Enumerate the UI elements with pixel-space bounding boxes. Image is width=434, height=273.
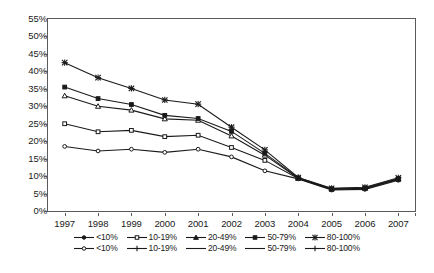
data-point-marker-circle-open	[196, 147, 200, 151]
legend-marker-triangle-filled	[186, 233, 206, 242]
legend-item-label: 80-100%	[326, 233, 360, 242]
data-point-marker-triangle-open	[62, 93, 67, 98]
data-point-marker-circle-open	[96, 149, 100, 153]
legend-item-label: 20-49%	[207, 244, 236, 253]
data-point-marker-triangle-open	[229, 133, 234, 138]
legend-item-label: 50-79%	[266, 244, 295, 253]
x-axis-tick-mark	[98, 213, 99, 216]
legend-marker-star	[305, 233, 325, 242]
y-axis-tick-label: 45%	[3, 49, 47, 59]
data-point-marker-star	[228, 124, 234, 130]
x-axis-tick-mark	[165, 213, 166, 216]
data-point-marker-square-open	[130, 128, 134, 132]
data-point-marker-triangle-open	[95, 104, 100, 109]
data-point-marker-triangle-open	[129, 108, 134, 113]
legend-item-20-49[interactable]: 20-49%	[186, 244, 236, 253]
data-point-marker-circle-open	[230, 155, 234, 159]
x-axis-tick-mark	[198, 213, 199, 216]
x-axis-tick-mark	[232, 213, 233, 216]
data-point-marker-star	[312, 235, 318, 241]
data-point-marker-circle-open	[63, 145, 67, 149]
x-axis-tick-mark	[332, 213, 333, 216]
data-point-marker-star	[328, 185, 334, 191]
data-point-marker-star	[195, 101, 201, 107]
legend-item-10[interactable]: <10%	[74, 244, 117, 253]
legend-marker-square-open	[127, 233, 147, 242]
line-chart: 0%5%10%15%20%25%30%35%40%45%50%55% 19971…	[0, 0, 434, 273]
y-axis-tick-label: 50%	[3, 31, 47, 41]
data-point-marker-star	[362, 184, 368, 190]
legend-item-80-100[interactable]: 80-100%	[305, 244, 360, 253]
series-line	[65, 146, 399, 190]
legend-marker-plus	[127, 244, 147, 253]
y-axis-tick-label: 55%	[3, 14, 47, 24]
series-20-49	[62, 93, 401, 191]
legend-item-label: 10-19%	[148, 244, 177, 253]
legend-item-label: <10%	[95, 233, 117, 242]
data-point-marker-square-open	[196, 133, 200, 137]
legend-item-label: 80-100%	[326, 244, 360, 253]
data-point-marker-star	[62, 60, 68, 66]
legend-row: <10%10-19%20-49%50-79%80-100%	[0, 232, 434, 243]
data-point-marker-plus	[134, 246, 139, 251]
y-axis-tick-label: 40%	[3, 66, 47, 76]
plot-area	[47, 18, 416, 212]
series-line	[65, 96, 399, 189]
legend-item-label: 10-19%	[148, 233, 177, 242]
data-point-marker-square-filled	[196, 117, 200, 121]
legend-item-50-79[interactable]: 50-79%	[245, 244, 295, 253]
series-layer	[48, 19, 415, 211]
data-point-marker-square-open	[230, 146, 234, 150]
data-point-marker-square-filled	[96, 97, 100, 101]
data-point-marker-star	[295, 174, 301, 180]
y-axis-tick-label: 30%	[3, 101, 47, 111]
data-point-marker-circle-open	[163, 150, 167, 154]
x-axis-end-tick-mark	[415, 213, 416, 216]
data-point-marker-star	[262, 147, 268, 153]
legend-item-label: <10%	[95, 244, 117, 253]
x-axis-tick-mark	[298, 213, 299, 216]
legend-marker-circle-filled	[74, 233, 94, 242]
data-point-marker-square-open	[96, 130, 100, 134]
data-point-marker-square-filled	[163, 113, 167, 117]
legend-marker-line	[245, 244, 265, 253]
data-point-marker-plus-line	[312, 246, 317, 251]
legend-marker-plus-line	[305, 244, 325, 253]
data-point-marker-triangle-filled	[194, 235, 199, 239]
data-point-marker-star	[395, 175, 401, 181]
legend-marker-line	[186, 244, 206, 253]
data-point-marker-square-filled	[254, 236, 258, 240]
legend-item-label: 20-49%	[207, 233, 236, 242]
x-axis-tick-mark	[131, 213, 132, 216]
data-point-marker-star	[162, 97, 168, 103]
legend-item-20-49[interactable]: 20-49%	[186, 233, 236, 242]
legend-item-10[interactable]: <10%	[74, 233, 117, 242]
y-axis-tick-label: 35%	[3, 84, 47, 94]
data-point-marker-star	[128, 85, 134, 91]
legend-row: <10%10-19%20-49%50-79%80-100%	[0, 243, 434, 254]
legend-item-label: 50-79%	[266, 233, 295, 242]
series-10	[63, 145, 400, 192]
chart-legend: <10%10-19%20-49%50-79%80-100%<10%10-19%2…	[0, 232, 434, 254]
x-axis-tick-label: 2007	[378, 218, 418, 229]
x-axis-tick-mark	[398, 213, 399, 216]
legend-marker-square-filled	[245, 233, 265, 242]
y-axis-tick-label: 5%	[3, 189, 47, 199]
data-point-marker-circle-open	[82, 247, 86, 251]
legend-marker-circle-open	[74, 244, 94, 253]
data-point-marker-square-open	[263, 159, 267, 163]
data-point-marker-circle-filled	[82, 236, 86, 240]
legend-item-80-100[interactable]: 80-100%	[305, 233, 360, 242]
legend-item-10-19[interactable]: 10-19%	[127, 244, 177, 253]
series-80-100	[62, 60, 402, 192]
x-axis: 1997199819992000200120022003200420052006…	[0, 213, 434, 233]
legend-item-10-19[interactable]: 10-19%	[127, 233, 177, 242]
data-point-marker-circle-open	[130, 147, 134, 151]
x-axis-tick-mark	[365, 213, 366, 216]
data-point-marker-square-filled	[130, 103, 134, 107]
legend-item-50-79[interactable]: 50-79%	[245, 233, 295, 242]
data-point-marker-circle-open	[263, 169, 267, 173]
x-axis-tick-mark	[265, 213, 266, 216]
data-point-marker-square-open	[63, 122, 67, 126]
data-point-marker-square-open	[135, 236, 139, 240]
